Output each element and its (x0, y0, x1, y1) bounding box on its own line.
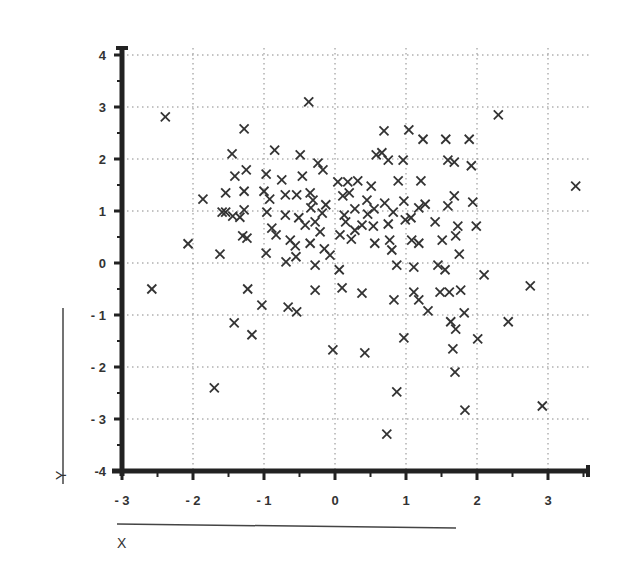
x-marker-icon (399, 197, 408, 206)
x-marker-icon (367, 182, 376, 191)
x-marker-icon (282, 257, 291, 266)
x-marker-icon (472, 222, 481, 231)
x-marker-icon (456, 286, 465, 295)
x-marker-icon (409, 288, 418, 297)
x-marker-icon (350, 226, 359, 235)
y-tick-label: 2 (99, 152, 106, 167)
x-tick-label: - 2 (185, 493, 200, 508)
x-axis-title: X (117, 535, 127, 551)
x-marker-icon (335, 265, 344, 274)
x-marker-icon (318, 165, 327, 174)
x-marker-icon (281, 211, 290, 220)
x-marker-icon (215, 250, 224, 259)
y-tick-label: 1 (99, 204, 106, 219)
x-marker-icon (318, 209, 327, 218)
x-marker-icon (389, 208, 398, 217)
x-marker-icon (451, 325, 460, 334)
x-marker-icon (301, 221, 310, 230)
x-marker-icon (494, 110, 503, 119)
x-marker-icon (240, 124, 249, 133)
tick-labels: -4- 3- 2- 101234- 3- 2- 10123 (91, 48, 552, 508)
x-marker-icon (416, 176, 425, 185)
x-marker-icon (414, 295, 423, 304)
x-marker-icon (404, 125, 413, 134)
x-marker-icon (387, 246, 396, 255)
x-marker-icon (448, 344, 457, 353)
x-marker-icon (389, 295, 398, 304)
x-marker-icon (419, 135, 428, 144)
x-marker-icon (338, 283, 347, 292)
x-marker-icon (379, 126, 388, 135)
x-marker-icon (438, 236, 447, 245)
y-tick-label: 0 (99, 256, 106, 271)
x-marker-icon (161, 112, 170, 121)
x-marker-icon (284, 303, 293, 312)
x-marker-icon (538, 402, 547, 411)
y-tick-label: - 2 (91, 360, 106, 375)
x-marker-icon (473, 334, 482, 343)
x-marker-icon (306, 188, 315, 197)
x-marker-icon (230, 318, 239, 327)
x-marker-icon (270, 146, 279, 155)
x-marker-icon (262, 249, 271, 258)
grid-lines (122, 48, 590, 471)
y-tick-label: - 1 (91, 308, 106, 323)
x-marker-icon (333, 177, 342, 186)
x-marker-icon (353, 176, 362, 185)
x-marker-icon (198, 195, 207, 204)
x-marker-icon (308, 196, 317, 205)
x-marker-icon (504, 317, 513, 326)
x-marker-icon (357, 289, 366, 298)
data-points (147, 97, 580, 438)
x-marker-icon (292, 307, 301, 316)
x-tick-label: 1 (402, 493, 409, 508)
x-marker-icon (445, 288, 454, 297)
x-marker-icon (335, 230, 344, 239)
x-marker-icon (240, 187, 249, 196)
x-marker-icon (362, 196, 371, 205)
x-marker-icon (571, 182, 580, 191)
x-marker-icon (228, 149, 237, 158)
x-marker-icon (316, 227, 325, 236)
x-marker-icon (384, 220, 393, 229)
x-marker-icon (304, 97, 313, 106)
x-marker-icon (347, 235, 356, 244)
x-marker-icon (306, 203, 315, 212)
x-marker-icon (357, 221, 366, 230)
x-marker-icon (210, 383, 219, 392)
x-marker-icon (292, 190, 301, 199)
x-marker-icon (328, 345, 337, 354)
x-marker-icon (370, 239, 379, 248)
x-marker-icon (385, 236, 394, 245)
x-marker-icon (313, 159, 322, 168)
x-marker-icon (350, 204, 359, 213)
y-tick-label: 4 (99, 48, 107, 63)
x-marker-icon (431, 217, 440, 226)
x-marker-icon (424, 306, 433, 315)
x-marker-icon (468, 198, 477, 207)
x-marker-icon (291, 241, 300, 250)
x-marker-icon (281, 190, 290, 199)
x-marker-icon (341, 217, 350, 226)
x-marker-icon (230, 172, 239, 181)
x-marker-icon (311, 261, 320, 270)
x-marker-icon (265, 195, 274, 204)
x-marker-icon (380, 199, 389, 208)
x-marker-icon (392, 387, 401, 396)
x-marker-icon (453, 222, 462, 231)
x-marker-icon (147, 285, 156, 294)
x-marker-icon (370, 204, 379, 213)
x-marker-icon (465, 135, 474, 144)
x-marker-icon (257, 301, 266, 310)
x-marker-icon (360, 348, 369, 357)
x-tick-label: - 1 (256, 493, 271, 508)
x-tick-label: 3 (544, 493, 551, 508)
x-marker-icon (460, 308, 469, 317)
x-marker-icon (247, 330, 256, 339)
x-marker-icon (446, 317, 455, 326)
x-marker-icon (384, 156, 393, 165)
x-marker-icon (436, 288, 445, 297)
x-marker-icon (455, 250, 464, 259)
x-tick-label: 2 (473, 493, 480, 508)
x-marker-icon (221, 188, 230, 197)
